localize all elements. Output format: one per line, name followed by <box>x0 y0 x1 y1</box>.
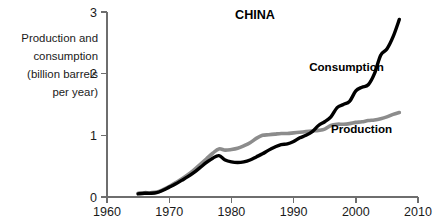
x-tick-label: 2000 <box>342 205 370 219</box>
x-tick-label: 1960 <box>93 205 121 219</box>
y-axis-title-line-3: (billion barrels <box>27 68 98 80</box>
axis-ticks: 0123196019701980199020002010 <box>90 6 432 220</box>
y-axis-title-line-1: Production and <box>21 32 98 44</box>
y-tick-label: 2 <box>90 67 97 81</box>
chart-figure: Production and consumption (billion barr… <box>0 0 433 220</box>
y-axis-title-line-4: per year) <box>52 86 98 98</box>
y-tick-label: 1 <box>90 129 97 143</box>
x-tick-label: 1970 <box>155 205 183 219</box>
x-tick-label: 2010 <box>404 205 432 219</box>
y-axis-title: Production and consumption (billion barr… <box>21 32 98 98</box>
x-tick-label: 1980 <box>217 205 245 219</box>
chart-canvas: Production and consumption (billion barr… <box>0 0 433 220</box>
y-tick-label: 0 <box>90 191 97 205</box>
y-tick-label: 3 <box>90 6 97 20</box>
axes <box>107 12 418 197</box>
series-lines <box>138 19 399 194</box>
series-label-production: Production <box>331 122 392 135</box>
series-line-consumption <box>138 19 399 194</box>
chart-title: CHINA <box>235 8 275 22</box>
y-axis-title-line-2: consumption <box>33 50 98 62</box>
series-label-consumption: Consumption <box>309 60 384 73</box>
x-tick-label: 1990 <box>280 205 308 219</box>
